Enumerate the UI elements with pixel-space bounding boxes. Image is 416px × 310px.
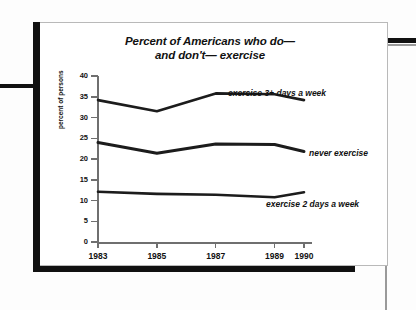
y-axis-labels: 4035302520151050: [56, 0, 88, 310]
left-margin-rule: [0, 84, 36, 88]
series-label-never-exercise: never exercise: [309, 148, 368, 158]
chart-title-line2: and don't— exercise: [60, 48, 360, 62]
x-axis-tick-label: 1983: [77, 251, 119, 261]
y-axis-tick-label: 20: [58, 154, 88, 163]
series-label-exercise-2days: exercise 2 days a week: [266, 199, 359, 209]
y-axis-tick: [91, 96, 98, 98]
y-axis-tick-label: 35: [58, 92, 88, 101]
chart-title-line1: Percent of Americans who do—: [125, 35, 295, 47]
y-axis-tick: [91, 179, 98, 181]
x-axis-tick: [274, 242, 276, 248]
y-axis-tick: [91, 75, 98, 77]
y-axis-tick-label: 10: [58, 196, 88, 205]
y-axis-tick: [91, 117, 98, 119]
y-axis-tick: [91, 138, 98, 140]
y-axis-tick-label: 40: [58, 71, 88, 80]
y-axis-tick: [91, 158, 98, 160]
y-axis-tick-label: 30: [58, 113, 88, 122]
y-axis-tick-label: 15: [58, 175, 88, 184]
y-axis-tick-label: 5: [58, 216, 88, 225]
x-axis-tick-label: 1987: [195, 251, 237, 261]
x-axis-line: [97, 242, 312, 244]
chart-title: Percent of Americans who do— and don't— …: [60, 34, 360, 62]
right-margin-mark: [388, 38, 416, 43]
x-axis-tick: [156, 242, 158, 248]
x-axis-tick-label: 1985: [136, 251, 178, 261]
x-axis-tick-label: 1990: [283, 251, 325, 261]
scanned-page: Percent of Americans who do— and don't— …: [0, 0, 416, 310]
y-axis-tick: [91, 200, 98, 202]
series-label-exercise-3plus: exercise 3+ days a week: [228, 88, 326, 98]
right-margin-rule: [385, 44, 416, 46]
x-axis-tick: [97, 242, 99, 248]
x-axis-tick: [215, 242, 217, 248]
x-axis-tick: [303, 242, 305, 248]
y-axis-tick-label: 25: [58, 133, 88, 142]
y-axis-tick: [91, 221, 98, 223]
y-axis-tick-label: 0: [58, 237, 88, 246]
